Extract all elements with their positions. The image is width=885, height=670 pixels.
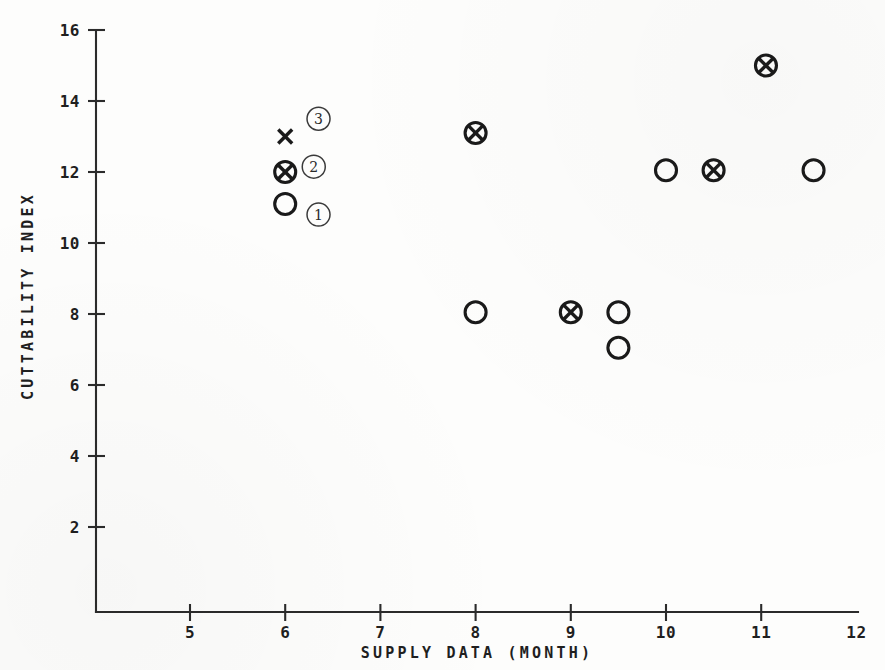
y-tick-label: 8 [70,305,80,324]
data-point-open-circle [275,193,296,214]
annotation-label: 2 [309,159,318,175]
data-point-circled-cross [703,160,724,181]
data-point-open-circle [608,302,629,323]
annotation-label: 3 [314,111,323,127]
x-tick-label: 12 [846,623,866,642]
y-tick-label: 2 [70,518,80,537]
x-tick-label: 8 [471,623,481,642]
annotation-1: 1 [307,203,330,226]
y-axis-title: CUTTABILITY INDEX [19,192,37,400]
annotation-2: 2 [302,155,325,178]
data-point-circled-cross [275,162,296,183]
x-tick-label: 10 [656,623,676,642]
y-tick-label: 10 [60,234,80,253]
x-tick-label: 11 [751,623,771,642]
data-point-open-circle [656,160,677,181]
data-point-open-circle [608,337,629,358]
x-tick-label: 5 [185,623,195,642]
y-tick-label: 16 [60,21,80,40]
x-tick-label: 7 [375,623,385,642]
axes [96,30,858,612]
x-tick-label: 6 [280,623,290,642]
y-tick-label: 14 [60,92,80,111]
x-axis-title: SUPPLY DATA (MONTH) [361,644,593,662]
annotation-markers: 321 [302,107,330,226]
annotation-label: 1 [314,207,323,223]
scatter-plot: 246810121416 56789101112 321 SUPPLY DATA… [0,0,885,670]
data-point-markers [275,55,824,358]
data-point-circled-cross [465,122,486,143]
data-point-open-circle [465,302,486,323]
data-point-circled-cross [755,55,776,76]
y-tick-label: 6 [70,376,80,395]
y-axis-ticks: 246810121416 [60,21,105,537]
y-tick-label: 12 [60,163,80,182]
chart-figure: 246810121416 56789101112 321 SUPPLY DATA… [0,0,885,670]
data-point-open-circle [803,160,824,181]
annotation-3: 3 [307,107,330,130]
x-axis-ticks: 56789101112 [185,604,867,642]
data-point-cross [278,130,292,144]
x-tick-label: 9 [566,623,576,642]
y-tick-label: 4 [70,447,80,466]
data-point-circled-cross [560,302,581,323]
